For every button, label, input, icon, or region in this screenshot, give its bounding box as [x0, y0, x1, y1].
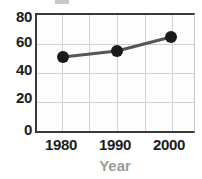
- plot-area: [35, 13, 195, 133]
- y-axis-tick-label: 20: [2, 90, 32, 105]
- data-point-marker: [165, 31, 177, 43]
- cropped-title-fragment: [55, 0, 69, 4]
- data-point-marker: [57, 51, 69, 63]
- x-axis-tick-label: 1990: [89, 136, 141, 153]
- x-axis-title: Year: [35, 157, 195, 175]
- x-axis-tick-labels: 1980 1990 2000: [0, 136, 202, 156]
- y-axis-tick-label: 0: [2, 122, 32, 137]
- x-axis-tick-label: 1980: [35, 136, 87, 153]
- y-axis-tick-label: 60: [2, 34, 32, 49]
- x-axis-tick-label: 2000: [143, 136, 195, 153]
- y-axis-tick-label: 40: [2, 62, 32, 77]
- chart-figure: 80 60 40 20 0 1980 1990 2000 Year: [0, 0, 202, 179]
- data-series-line: [37, 15, 195, 133]
- data-point-marker: [111, 45, 123, 57]
- y-axis-tick-label: 80: [2, 9, 32, 24]
